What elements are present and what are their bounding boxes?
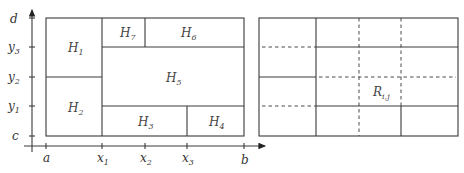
cell-label-Rij: Ri,j [372, 85, 390, 101]
y-label-d: d [10, 12, 18, 26]
x-label-a: a [43, 151, 50, 165]
left-panel: d y3 y2 y1 c a x1 x2 x3 b H1 H2 H3 H4 H5… [7, 10, 265, 167]
region-H6: H6 [180, 26, 197, 42]
rectangle-partition-diagram: d y3 y2 y1 c a x1 x2 x3 b H1 H2 H3 H4 H5… [0, 0, 464, 173]
x-label-b: b [241, 153, 249, 167]
region-H1: H1 [67, 41, 84, 57]
right-panel: Ri,j [259, 18, 458, 136]
y-label-y3: y3 [7, 40, 20, 56]
x-label-x1: x1 [97, 151, 109, 167]
region-H2: H2 [67, 101, 84, 117]
region-H7: H7 [119, 26, 136, 42]
region-H5: H5 [165, 71, 182, 87]
region-H4: H4 [208, 115, 225, 131]
region-H3: H3 [137, 115, 154, 131]
y-label-y1: y1 [7, 99, 20, 115]
y-label-c: c [12, 129, 19, 143]
x-label-x3: x3 [182, 151, 194, 167]
y-label-y2: y2 [7, 70, 20, 86]
x-label-x2: x2 [140, 151, 152, 167]
